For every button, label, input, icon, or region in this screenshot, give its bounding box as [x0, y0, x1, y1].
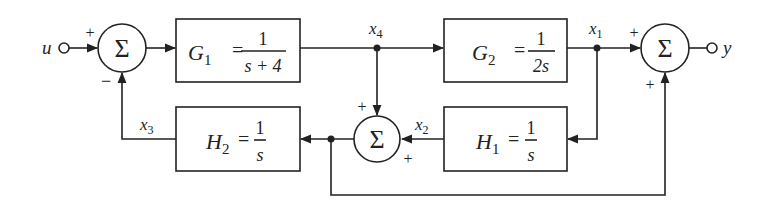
signal-x1: x1	[588, 19, 603, 41]
sum1-sign-plus: +	[85, 24, 94, 41]
block-diagram: u Σ + − G1 = 1 s + 4 x4 G2 = 1 2s x1 Σ	[0, 0, 770, 205]
sum2-sign-plus-top: +	[357, 98, 366, 115]
summing-junction-1: Σ + −	[85, 24, 146, 91]
h1-eq: =	[508, 128, 519, 150]
g2-denominator: 2s	[533, 56, 549, 76]
output-label: y	[721, 37, 732, 58]
block-h2: H2 = 1 s	[176, 107, 300, 171]
block-g2: G2 = 1 2s	[444, 19, 567, 82]
sum2-sign-plus-right: +	[403, 150, 412, 167]
summing-junction-2: Σ + +	[354, 98, 413, 167]
output-terminal	[707, 43, 717, 53]
h1-numerator: 1	[527, 118, 536, 138]
sum1-sign-minus: −	[101, 71, 111, 91]
input-terminal	[59, 43, 69, 53]
signal-x2: x2	[414, 115, 429, 137]
sum3-sign-plus-bottom: +	[645, 76, 654, 93]
block-g1: G1 = 1 s + 4	[176, 19, 300, 82]
signal-x4: x4	[368, 19, 383, 41]
block-h1: H1 = 1 s	[444, 107, 567, 171]
g2-eq: =	[514, 39, 525, 61]
h2-eq: =	[238, 128, 249, 150]
g1-denominator: s + 4	[244, 56, 281, 76]
sigma-symbol: Σ	[369, 125, 384, 154]
sigma-symbol: Σ	[114, 34, 129, 63]
g1-numerator: 1	[259, 29, 268, 49]
sum3-sign-plus-left: +	[629, 24, 638, 41]
x1-to-h1-arrow	[568, 48, 597, 139]
g1-eq: =	[232, 39, 243, 61]
h2-denominator: s	[256, 145, 263, 165]
input-label: u	[42, 37, 52, 58]
g2-numerator: 1	[537, 29, 546, 49]
signal-x3: x3	[139, 115, 154, 137]
h1-denominator: s	[527, 145, 534, 165]
h2-numerator: 1	[256, 118, 265, 138]
sigma-symbol: Σ	[657, 34, 672, 63]
summing-junction-3: Σ + +	[629, 24, 689, 93]
